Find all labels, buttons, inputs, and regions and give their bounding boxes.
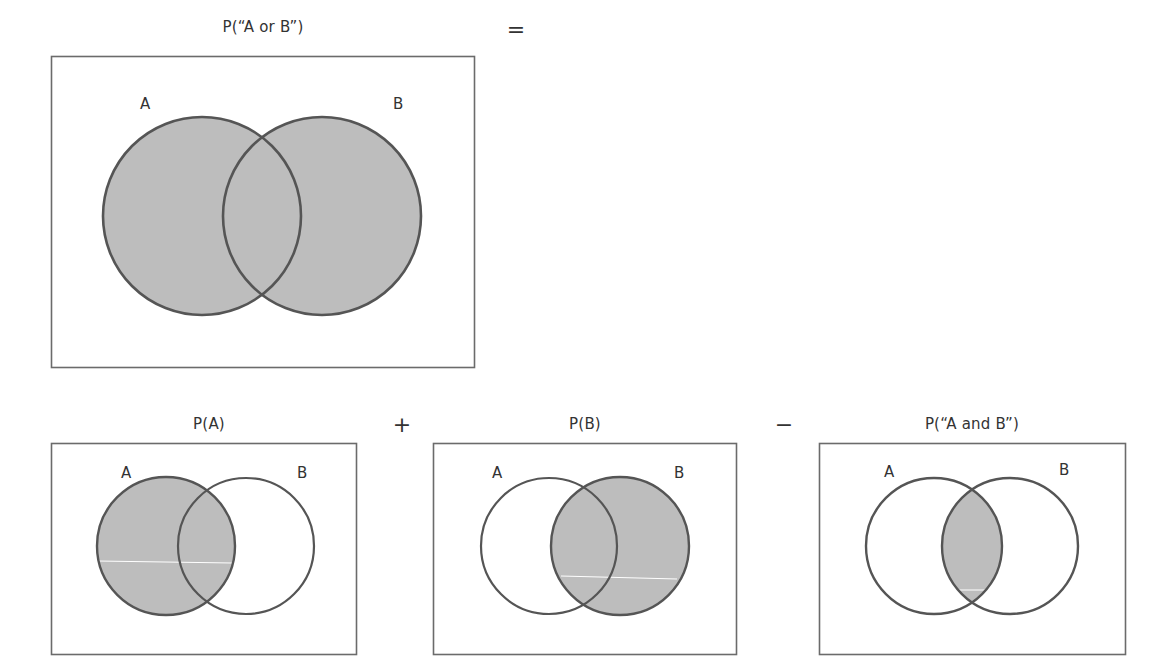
venn-diagrams-canvas: A B A B A B [0, 0, 1167, 668]
set-b-label: B [1059, 461, 1069, 479]
set-b-label: B [674, 464, 684, 482]
panel-union: A B [52, 57, 475, 368]
panel-p-b: A B [434, 444, 737, 655]
panel-p-a: A B [52, 444, 357, 655]
set-a-label: A [492, 464, 503, 482]
set-b-label: B [297, 464, 307, 482]
venn-addition-rule-diagram: P(“A or B”) = P(A) + P(B) − P(“A and B”)… [0, 0, 1167, 668]
set-b-label: B [393, 95, 403, 113]
panel-intersection: A B [820, 444, 1126, 655]
set-a-label: A [140, 95, 151, 113]
set-a-label: A [121, 464, 132, 482]
set-a-label: A [884, 463, 895, 481]
